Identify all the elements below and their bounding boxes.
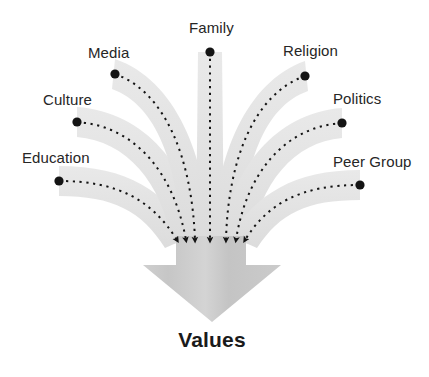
diagram-canvas xyxy=(0,0,429,377)
source-label-education: Education xyxy=(22,150,90,165)
source-label-religion: Religion xyxy=(283,43,338,58)
values-arrow xyxy=(143,236,281,322)
origin-dot-family xyxy=(205,47,214,56)
origin-dot-peer-group xyxy=(355,180,364,189)
origin-dot-media xyxy=(110,69,119,78)
origin-dot-culture xyxy=(72,117,81,126)
outcome-label-values: Values xyxy=(0,329,427,350)
source-label-culture: Culture xyxy=(43,92,92,107)
source-label-peer-group: Peer Group xyxy=(333,154,412,169)
influence-band-layer xyxy=(59,52,360,248)
values-arrow-layer xyxy=(143,236,281,322)
values-influence-diagram: EducationCultureMediaFamilyReligionPolit… xyxy=(0,0,429,377)
source-label-media: Media xyxy=(88,45,129,60)
source-label-politics: Politics xyxy=(333,91,381,106)
origin-dot-politics xyxy=(337,118,346,127)
source-label-family: Family xyxy=(189,20,234,35)
origin-dot-education xyxy=(54,176,63,185)
origin-dot-religion xyxy=(300,71,309,80)
